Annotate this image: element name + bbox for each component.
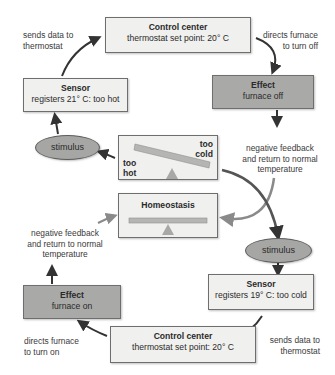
sensor-bottom-detail: registers 19° C: too cold xyxy=(215,290,307,300)
stimulus-right-ellipse: stimulus xyxy=(245,238,312,263)
effect-bottom-title: Effect xyxy=(24,290,120,301)
effect-top-box: Effect furnace off xyxy=(212,75,314,109)
arrow-feedback-to-homeostasis-left xyxy=(98,216,114,223)
control-center-bottom-box: Control center thermostat set point: 20°… xyxy=(110,326,256,363)
effect-bottom-box: Effect furnace on xyxy=(23,285,121,319)
arrow-imbalance-to-stimulus-right xyxy=(222,170,278,236)
label-feedback-top: negative feedback and return to normal t… xyxy=(225,143,335,175)
label-directs-on: directs furnace to turn on xyxy=(24,336,79,357)
control-center-top-box: Control center thermostat set point: 20°… xyxy=(105,17,251,53)
arrow-stimulus-to-sensor-top xyxy=(55,116,58,134)
arrow-feedback-to-homeostasis-right xyxy=(224,178,274,219)
sensor-bottom-box: Sensor registers 19° C: too cold xyxy=(208,274,314,310)
effect-top-detail: furnace off xyxy=(243,91,283,101)
homeostasis-box: Homeostasis xyxy=(118,193,218,238)
control-center-top-title: Control center xyxy=(106,22,250,33)
control-center-bottom-title: Control center xyxy=(111,331,255,342)
effect-top-title: Effect xyxy=(213,80,313,91)
stimulus-right-label: stimulus xyxy=(262,245,295,255)
label-sends-data-top: sends data to thermostat xyxy=(23,30,73,51)
sensor-top-detail: registers 21° C: too hot xyxy=(32,94,120,104)
sensor-top-box: Sensor registers 21° C: too hot xyxy=(23,78,128,112)
imbalance-box: too hot too cold xyxy=(118,135,218,180)
arrow-imbalance-to-stimulus-left xyxy=(100,152,115,158)
effect-bottom-detail: furnace on xyxy=(52,301,93,311)
label-sends-data-bottom: sends data to thermostat xyxy=(258,335,320,356)
control-center-bottom-detail: thermostat set point: 20° C xyxy=(132,342,234,352)
too-cold-label: too cold xyxy=(195,139,213,159)
label-feedback-bottom: negative feedback and return to normal t… xyxy=(15,228,115,260)
control-center-top-detail: thermostat set point: 20° C xyxy=(127,33,229,43)
stimulus-left-label: stimulus xyxy=(51,142,84,152)
too-hot-label: too hot xyxy=(123,158,136,178)
arrow-control-to-effect-bottom xyxy=(80,322,107,336)
sensor-bottom-title: Sensor xyxy=(209,279,313,290)
label-directs-off: directs furnace to turn off xyxy=(255,30,318,51)
sensor-top-title: Sensor xyxy=(24,83,127,94)
stimulus-left-ellipse: stimulus xyxy=(35,135,100,160)
balanced-seesaw-icon xyxy=(119,194,217,237)
